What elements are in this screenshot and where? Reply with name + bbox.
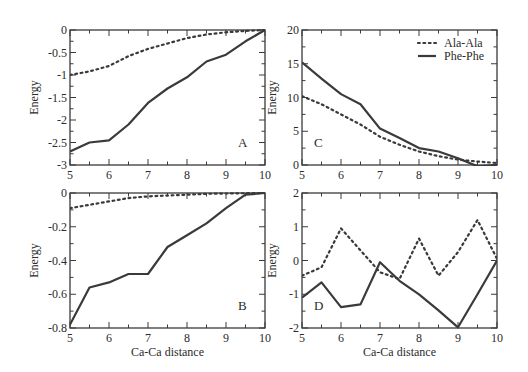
x-tick-label: 7 [145,168,151,182]
series-phe-phe-line [70,193,265,325]
x-tick-label: 10 [259,331,271,345]
panel-label: C [314,135,323,150]
panel-a: 56789100-0.5-1-1.5-2-2.5-3EnergyA [27,23,271,182]
panel-c: 567891005101520EnergyCAla-AlaPhe-Phe [265,23,503,182]
panel-label: A [238,135,248,150]
x-tick-label: 7 [377,168,383,182]
series-phe-phe-line [302,62,497,166]
y-tick-label: 0 [293,254,299,268]
x-tick-label: 8 [184,168,190,182]
y-tick-label: 0 [61,186,67,200]
y-tick-label: -2.5 [48,136,67,150]
y-tick-label: -3 [57,158,67,172]
y-tick-label: 5 [293,124,299,138]
series-ala-ala-line [302,220,497,279]
y-tick-label: -1 [289,287,299,301]
x-tick-label: 9 [455,168,461,182]
y-tick-label: 10 [287,91,299,105]
x-tick-label: 5 [67,168,73,182]
y-tick-label: -2 [289,321,299,335]
x-tick-label: 8 [416,168,422,182]
plot-frame [70,30,265,165]
x-tick-label: 7 [145,331,151,345]
y-tick-label: 2 [293,186,299,200]
x-tick-label: 6 [338,331,344,345]
panel-b: 56789100-0.2-0.4-0.6-0.8EnergyCa-Ca dist… [27,186,271,359]
x-tick-label: 8 [184,331,190,345]
x-tick-label: 7 [377,331,383,345]
y-tick-label: -0.8 [48,321,67,335]
x-tick-label: 5 [67,331,73,345]
y-tick-label: 15 [287,57,299,71]
y-tick-label: 20 [287,23,299,37]
y-tick-label: -0.4 [48,254,67,268]
panel-d: 5678910210-1-2EnergyCa-Ca distanceD [265,186,503,359]
y-axis-title: Energy [27,243,41,277]
plot-frame [302,193,497,328]
x-tick-label: 10 [491,168,503,182]
y-tick-label: 0 [293,158,299,172]
x-tick-label: 8 [416,331,422,345]
legend-label: Ala-Ala [444,36,483,50]
series-ala-ala-line [70,30,265,75]
x-axis-title: Ca-Ca distance [363,345,436,359]
y-axis-title: Energy [27,80,41,114]
x-tick-label: 6 [106,331,112,345]
y-tick-label: -0.6 [48,287,67,301]
series-phe-phe-line [70,30,265,152]
y-axis-title: Energy [265,80,279,114]
y-axis-title: Energy [265,243,279,277]
y-tick-label: -0.5 [48,46,67,60]
plot-frame [70,193,265,328]
x-axis-title: Ca-Ca distance [131,345,204,359]
x-tick-label: 10 [259,168,271,182]
y-tick-label: -1 [57,68,67,82]
x-tick-label: 9 [223,168,229,182]
x-tick-label: 5 [299,168,305,182]
x-tick-label: 9 [223,331,229,345]
y-tick-label: 0 [61,23,67,37]
legend: Ala-AlaPhe-Phe [418,36,484,63]
x-tick-label: 6 [338,168,344,182]
y-tick-label: -0.2 [48,220,67,234]
x-tick-label: 5 [299,331,305,345]
y-tick-label: 1 [293,220,299,234]
panel-label: B [238,298,247,313]
panel-label: D [314,298,323,313]
legend-label: Phe-Phe [444,49,484,63]
y-tick-label: -1.5 [48,91,67,105]
figure: 56789100-0.5-1-1.5-2-2.5-3EnergyA 567891… [0,0,528,372]
y-tick-label: -2 [57,113,67,127]
series-ala-ala-line [302,96,497,163]
series-phe-phe-line [302,261,497,328]
x-tick-label: 10 [491,331,503,345]
x-tick-label: 9 [455,331,461,345]
x-tick-label: 6 [106,168,112,182]
